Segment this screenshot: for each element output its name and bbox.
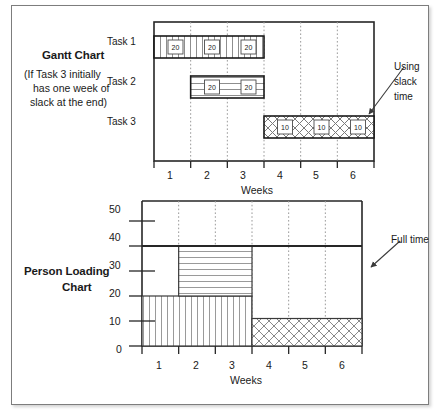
gantt-effort-label: 20 (172, 44, 180, 51)
loading-bar-task1 (142, 296, 252, 346)
gantt-xtick-6: 6 (350, 169, 356, 181)
gantt-xtick-3: 3 (240, 169, 246, 181)
gantt-xtick-2: 2 (204, 169, 210, 181)
gantt-annotation-line-2: slack (394, 76, 417, 89)
loading-xtick-5: 5 (302, 359, 308, 371)
gantt-task-label-3: Task 3 (107, 116, 136, 127)
gantt-plot: 20 20 20 20 20 10 10 (142, 11, 387, 181)
loading-chart-title-line-2: Chart (62, 281, 92, 293)
loading-plot (119, 191, 387, 376)
gantt-chart-title: Gantt Chart (42, 49, 104, 61)
loading-xtick-4: 4 (266, 359, 272, 371)
loading-xtick-3: 3 (229, 359, 235, 371)
loading-xtick-1: 1 (156, 359, 162, 371)
loading-x-axis-title: Weeks (230, 374, 262, 386)
gantt-effort-label: 10 (354, 124, 362, 131)
loading-y-ticks (129, 221, 142, 346)
loading-bar-task3 (252, 319, 362, 347)
gantt-effort-label: 10 (281, 124, 289, 131)
gantt-task-label-2: Task 2 (107, 76, 136, 87)
gantt-note-line-1: (If Task 3 initially (24, 68, 101, 82)
loading-annotation-fulltime: Full time (391, 234, 429, 247)
loading-bar-task2 (179, 246, 252, 296)
gantt-effort-label: 10 (318, 124, 326, 131)
figure-page: Gantt Chart (If Task 3 initially has one… (0, 0, 441, 420)
gantt-xtick-4: 4 (277, 169, 283, 181)
figure-panel: Gantt Chart (If Task 3 initially has one… (11, 5, 429, 405)
gantt-x-axis-ticks (154, 161, 374, 168)
gantt-bar-task-1: 20 20 20 (154, 36, 264, 58)
gantt-effort-label: 20 (208, 44, 216, 51)
gantt-note-line-3: slack at the end) (30, 96, 107, 110)
gantt-xtick-1: 1 (167, 169, 173, 181)
loading-xtick-2: 2 (193, 359, 199, 371)
gantt-bar-task-2: 20 20 (191, 76, 264, 98)
gantt-annotation-line-1: Using (394, 61, 420, 74)
gantt-effort-label: 20 (245, 84, 253, 91)
gantt-note-line-2: has one week of (33, 82, 109, 96)
gantt-bar-task-3: 10 10 10 (264, 116, 374, 138)
loading-x-ticks (142, 346, 362, 354)
gantt-effort-label: 20 (208, 84, 216, 91)
gantt-task-label-1: Task 1 (107, 36, 136, 47)
gantt-annotation-line-3: time (394, 91, 413, 104)
loading-xtick-6: 6 (339, 359, 345, 371)
loading-chart-title-line-1: Person Loading (24, 265, 110, 277)
gantt-xtick-5: 5 (313, 169, 319, 181)
gantt-effort-label: 20 (245, 44, 253, 51)
